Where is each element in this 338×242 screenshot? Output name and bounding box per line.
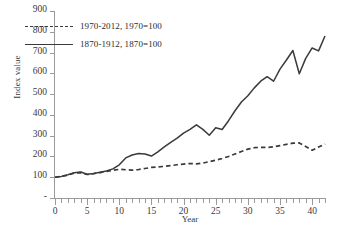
x-tick-minor <box>209 199 210 203</box>
x-tick-minor <box>113 199 114 203</box>
y-tick-label: 400 <box>7 108 47 118</box>
y-tick-label: - <box>7 191 47 201</box>
y-tick-label: 300 <box>7 129 47 139</box>
x-tick-minor <box>74 199 75 203</box>
x-tick-label: 25 <box>201 206 231 216</box>
x-tick-minor <box>145 199 146 203</box>
y-tick-label: 900 <box>7 4 47 14</box>
series-line <box>55 143 325 177</box>
x-tick-minor <box>319 199 320 203</box>
x-tick-minor <box>106 199 107 203</box>
x-tick-minor <box>325 199 326 203</box>
x-tick-minor <box>286 199 287 203</box>
x-tick-major <box>55 199 56 205</box>
x-tick-minor <box>203 199 204 203</box>
x-tick-major <box>87 199 88 205</box>
x-tick-minor <box>164 199 165 203</box>
figure-caption <box>0 236 338 242</box>
x-tick-label: 35 <box>265 206 295 216</box>
x-tick-major <box>216 199 217 205</box>
x-tick-minor <box>299 199 300 203</box>
x-tick-minor <box>61 199 62 203</box>
x-tick-minor <box>222 199 223 203</box>
x-tick-label: 30 <box>233 206 263 216</box>
x-tick-minor <box>171 199 172 203</box>
x-tick-minor <box>94 199 95 203</box>
legend-swatch-solid-icon <box>25 44 73 45</box>
legend-label: 1970-2012, 1970=100 <box>80 21 162 31</box>
x-tick-minor <box>229 199 230 203</box>
x-tick-minor <box>261 199 262 203</box>
legend-label: 1870-1912, 1870=100 <box>80 39 162 49</box>
x-tick-major <box>151 199 152 205</box>
x-tick-major <box>312 199 313 205</box>
x-tick-minor <box>177 199 178 203</box>
y-tick-label: 500 <box>7 87 47 97</box>
x-tick-minor <box>68 199 69 203</box>
x-tick-label: 5 <box>72 206 102 216</box>
legend-swatch-dashed-icon <box>25 26 73 27</box>
x-tick-minor <box>306 199 307 203</box>
x-tick-minor <box>267 199 268 203</box>
x-tick-minor <box>158 199 159 203</box>
x-tick-label: 15 <box>136 206 166 216</box>
y-tick-label: 100 <box>7 170 47 180</box>
x-tick-minor <box>81 199 82 203</box>
x-tick-label: 40 <box>297 206 327 216</box>
chart-figure: Index value Year -1002003004005006007008… <box>0 0 338 242</box>
x-tick-minor <box>190 199 191 203</box>
x-tick-label: 10 <box>104 206 134 216</box>
x-tick-major <box>119 199 120 205</box>
x-tick-minor <box>139 199 140 203</box>
x-tick-label: 0 <box>40 206 70 216</box>
x-tick-major <box>248 199 249 205</box>
legend-item: 1970-2012, 1970=100 <box>25 17 162 35</box>
x-tick-label: 20 <box>169 206 199 216</box>
x-tick-minor <box>196 199 197 203</box>
series-line <box>55 36 325 177</box>
x-tick-major <box>184 199 185 205</box>
x-tick-minor <box>241 199 242 203</box>
x-tick-minor <box>274 199 275 203</box>
y-tick-label: 600 <box>7 66 47 76</box>
x-tick-minor <box>293 199 294 203</box>
x-tick-major <box>280 199 281 205</box>
x-tick-minor <box>235 199 236 203</box>
x-tick-minor <box>132 199 133 203</box>
x-tick-marks: 0510152025303540 <box>54 199 326 219</box>
x-tick-minor <box>254 199 255 203</box>
chart-legend: 1970-2012, 1970=100 1870-1912, 1870=100 <box>25 17 162 53</box>
legend-item: 1870-1912, 1870=100 <box>25 35 162 53</box>
x-tick-minor <box>100 199 101 203</box>
x-tick-minor <box>126 199 127 203</box>
y-tick-label: 200 <box>7 149 47 159</box>
